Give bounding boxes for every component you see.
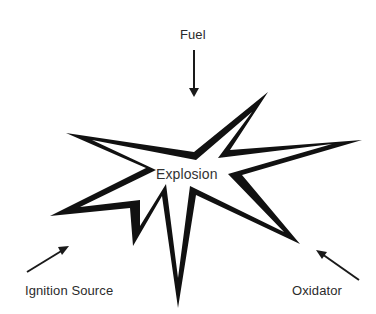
- ignition-arrow: [27, 246, 69, 272]
- diagram-graphics: [0, 0, 376, 314]
- ignition-source-label: Ignition Source: [25, 283, 113, 298]
- explosion-label: Explosion: [156, 166, 218, 182]
- oxidator-label: Oxidator: [292, 283, 342, 298]
- fuel-arrow: [189, 50, 199, 97]
- oxidator-arrow: [316, 250, 359, 280]
- explosion-star-icon: [50, 92, 362, 308]
- explosion-diagram: Fuel Explosion Ignition Source Oxidator: [0, 0, 376, 314]
- fuel-label: Fuel: [180, 27, 206, 42]
